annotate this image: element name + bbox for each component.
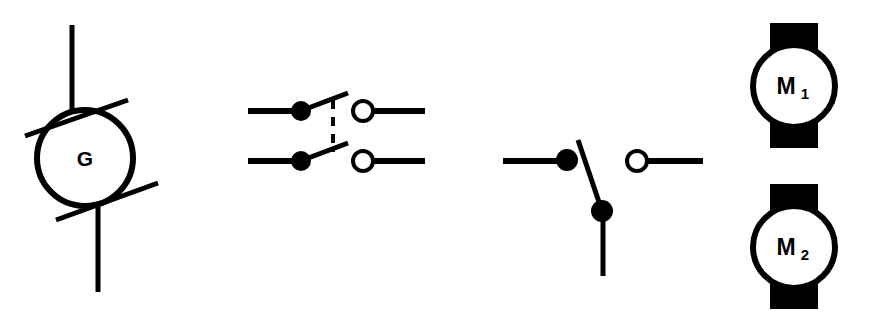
lower-pole-open-terminal xyxy=(353,151,373,171)
single-switch-lower-terminal xyxy=(591,200,613,222)
switch-pole-lower xyxy=(248,143,425,171)
schematic-diagram: G xyxy=(0,0,873,321)
single-switch-open-terminal xyxy=(627,151,647,171)
generator-symbol: G xyxy=(25,25,158,292)
lower-pole-pivot-terminal xyxy=(291,151,311,171)
motor-2-symbol: M 2 xyxy=(753,184,835,309)
motor-1-label: M xyxy=(776,73,795,99)
single-switch-blade xyxy=(578,140,601,208)
upper-pole-pivot-terminal xyxy=(291,101,311,121)
single-switch-pivot-terminal xyxy=(556,149,578,171)
upper-pole-open-terminal xyxy=(353,101,373,121)
motor-1-subscript: 1 xyxy=(801,85,809,102)
lower-pole-blade xyxy=(303,143,348,160)
double-pole-switch-symbol xyxy=(248,93,425,171)
single-pole-switch-symbol xyxy=(503,140,703,276)
motor-1-symbol: M 1 xyxy=(753,23,835,148)
schematic-canvas: G xyxy=(0,0,873,321)
switch-pole-upper xyxy=(248,93,425,121)
motor-2-label: M xyxy=(776,234,795,260)
generator-label: G xyxy=(77,147,93,170)
motor-2-subscript: 2 xyxy=(801,246,809,263)
upper-pole-blade xyxy=(303,93,348,110)
